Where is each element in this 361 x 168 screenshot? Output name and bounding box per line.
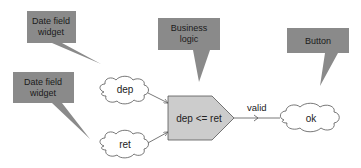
node-label: ret: [119, 139, 131, 150]
edge-ret-to-logic: [146, 132, 168, 144]
node-label: dep <= ret: [176, 113, 222, 124]
callout-business-logic: Business logic: [158, 18, 220, 82]
callout-text: logic: [180, 34, 199, 44]
callout-text: Date field: [32, 16, 70, 26]
callout-date-field-top: Date field widget: [27, 11, 101, 64]
callout-text: Date field: [24, 77, 62, 87]
logic-node: dep <= ret: [168, 96, 234, 140]
node-label: ok: [306, 113, 318, 124]
callout-text: widget: [29, 88, 57, 98]
callout-button: Button: [287, 28, 349, 86]
callout-text: widget: [37, 27, 65, 37]
cloud-node-dep: dep: [100, 76, 149, 104]
callout-text: Button: [305, 36, 331, 46]
callout-text: Business: [171, 23, 208, 33]
node-label: dep: [117, 84, 134, 95]
diagram-canvas: Date field widget Date field widget Busi…: [0, 0, 361, 168]
edge-label-valid: valid: [247, 102, 267, 113]
callout-date-field-bottom: Date field widget: [13, 72, 90, 139]
cloud-node-ok: ok: [280, 103, 339, 132]
edge-dep-to-logic: [146, 92, 168, 103]
cloud-node-ret: ret: [100, 130, 149, 158]
